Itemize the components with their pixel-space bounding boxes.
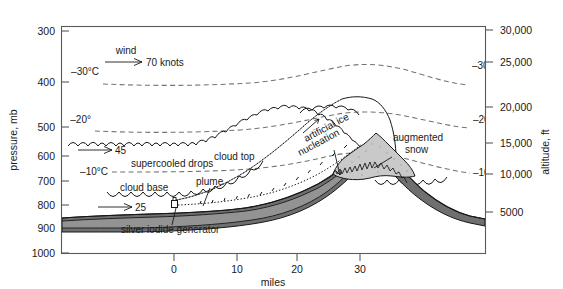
annotation-augmented-snow-line1: augmented xyxy=(393,132,443,143)
x-axis-title: miles xyxy=(261,276,286,288)
x-tick-label-30: 30 xyxy=(354,263,366,275)
wind-speed-45-label: 45 xyxy=(115,145,127,156)
right-tick-label-5000: 5000 xyxy=(500,206,524,218)
right-tick-label-30000: 30,000 xyxy=(500,24,532,36)
right-tick-label-15000: 15,000 xyxy=(500,137,532,149)
left-tick-label-800: 800 xyxy=(37,199,55,211)
annotation-silver-iodide-generator: silver iodide generator xyxy=(121,224,220,235)
x-tick-label-20: 20 xyxy=(291,263,303,275)
isotherm-minus20-label-left: –20° xyxy=(70,114,91,125)
wind-speed-70-label: 70 knots xyxy=(146,57,184,68)
isotherm-minus30-label-left: –30°C xyxy=(71,66,99,77)
left-tick-label-500: 500 xyxy=(37,121,55,133)
left-tick-label-700: 700 xyxy=(37,175,55,187)
right-axis-title: altitude, ft xyxy=(539,129,551,175)
isotherm-minus10-label-left: –10°C xyxy=(80,166,108,177)
x-tick-label-10: 10 xyxy=(231,263,243,275)
left-tick-label-300: 300 xyxy=(37,25,55,37)
annotation-augmented-snow-line2: snow xyxy=(405,144,429,155)
wind-caption-label: wind xyxy=(115,45,137,56)
left-tick-label-600: 600 xyxy=(37,150,55,162)
left-axis-title: pressure, mb xyxy=(7,109,19,170)
figure-svg: 300 400 500 600 700 800 900 1000 pressur… xyxy=(0,0,563,289)
left-tick-label-400: 400 xyxy=(37,76,55,88)
annotation-supercooled-drops: supercooled drops xyxy=(131,158,213,169)
right-tick-label-25000: 25,000 xyxy=(500,56,532,68)
right-tick-label-20000: 20,000 xyxy=(500,101,532,113)
wind-speed-25-label: 25 xyxy=(135,202,147,213)
left-tick-label-1000: 1000 xyxy=(32,247,56,259)
left-tick-label-900: 900 xyxy=(37,222,55,234)
cloud-seeding-cross-section-figure: 300 400 500 600 700 800 900 1000 pressur… xyxy=(0,0,563,289)
right-tick-label-10000: 10,000 xyxy=(500,168,532,180)
x-tick-label-0: 0 xyxy=(171,263,177,275)
annotation-cloud-base: cloud base xyxy=(120,182,169,193)
annotation-plume: plume xyxy=(196,176,224,187)
annotation-cloud-top: cloud top xyxy=(214,151,255,162)
